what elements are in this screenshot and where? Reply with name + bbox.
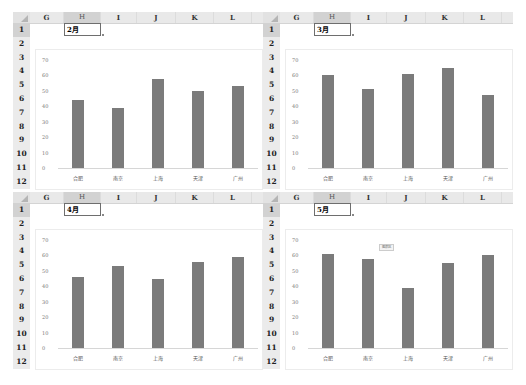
column-header-g[interactable]: G	[30, 192, 64, 203]
column-header-j[interactable]: J	[137, 192, 176, 203]
bar-0[interactable]	[322, 75, 334, 168]
column-header-k[interactable]: K	[176, 192, 214, 203]
column-header-g[interactable]: G	[280, 12, 314, 23]
row-header-4[interactable]: 4	[13, 244, 30, 258]
row-header-1[interactable]: 1	[13, 23, 30, 37]
row-header-11[interactable]: 11	[263, 161, 280, 175]
bar-4[interactable]	[482, 255, 494, 348]
column-header-j[interactable]: J	[137, 12, 176, 23]
column-header-h[interactable]: H	[314, 192, 351, 203]
row-header-2[interactable]: 2	[263, 217, 280, 231]
bar-2[interactable]	[152, 79, 164, 168]
column-header-j[interactable]: J	[387, 192, 426, 203]
row-header-10[interactable]: 10	[263, 327, 280, 341]
column-header-l[interactable]: L	[464, 192, 502, 203]
row-header-3[interactable]: 3	[13, 51, 30, 65]
row-header-9[interactable]: 9	[263, 313, 280, 327]
row-header-7[interactable]: 7	[13, 286, 30, 300]
bar-1[interactable]	[112, 266, 124, 348]
selected-cell-h1[interactable]: 5月	[314, 203, 351, 216]
row-header-10[interactable]: 10	[13, 147, 30, 161]
row-header-11[interactable]: 11	[13, 341, 30, 355]
bar-chart-2[interactable]: 706050403020100合肥南京上海天津广州	[285, 49, 513, 190]
row-header-5[interactable]: 5	[13, 78, 30, 92]
bar-4[interactable]	[482, 95, 494, 168]
column-header-l[interactable]: L	[464, 12, 502, 23]
row-header-3[interactable]: 3	[13, 231, 30, 245]
selected-cell-h1[interactable]: 2月	[64, 23, 101, 36]
bar-1[interactable]	[362, 89, 374, 168]
row-header-6[interactable]: 6	[13, 92, 30, 106]
row-header-3[interactable]: 3	[263, 231, 280, 245]
column-header-l[interactable]: L	[214, 192, 252, 203]
row-header-7[interactable]: 7	[263, 106, 280, 120]
row-header-1[interactable]: 1	[13, 203, 30, 217]
bar-2[interactable]	[402, 288, 414, 348]
fill-handle[interactable]	[102, 214, 104, 216]
bar-4[interactable]	[232, 86, 244, 168]
bar-3[interactable]	[192, 91, 204, 168]
fill-handle[interactable]	[102, 34, 104, 36]
row-header-12[interactable]: 12	[263, 175, 280, 189]
column-header-g[interactable]: G	[30, 12, 64, 23]
selected-cell-h1[interactable]: 3月	[314, 23, 351, 36]
bar-0[interactable]	[322, 254, 334, 348]
row-header-8[interactable]: 8	[263, 120, 280, 134]
row-header-8[interactable]: 8	[13, 300, 30, 314]
fill-handle[interactable]	[352, 214, 354, 216]
column-header-i[interactable]: I	[351, 192, 387, 203]
row-header-6[interactable]: 6	[263, 92, 280, 106]
row-header-2[interactable]: 2	[13, 37, 30, 51]
row-header-2[interactable]: 2	[13, 217, 30, 231]
column-header-h[interactable]: H	[64, 12, 101, 23]
column-header-h[interactable]: H	[314, 12, 351, 23]
bar-0[interactable]	[72, 277, 84, 348]
selected-cell-h1[interactable]: 4月	[64, 203, 101, 216]
row-header-9[interactable]: 9	[263, 133, 280, 147]
bar-chart-1[interactable]: 706050403020100合肥南京上海天津广州	[35, 49, 263, 190]
row-header-4[interactable]: 4	[263, 64, 280, 78]
row-header-1[interactable]: 1	[263, 203, 280, 217]
bar-chart-3[interactable]: 706050403020100合肥南京上海天津广州	[35, 229, 263, 370]
row-header-5[interactable]: 5	[263, 258, 280, 272]
row-header-11[interactable]: 11	[13, 161, 30, 175]
row-header-7[interactable]: 7	[13, 106, 30, 120]
row-header-12[interactable]: 12	[13, 175, 30, 189]
row-header-5[interactable]: 5	[263, 78, 280, 92]
bar-3[interactable]	[442, 68, 454, 168]
row-header-3[interactable]: 3	[263, 51, 280, 65]
bar-4[interactable]	[232, 257, 244, 348]
row-header-6[interactable]: 6	[263, 272, 280, 286]
row-header-11[interactable]: 11	[263, 341, 280, 355]
bar-3[interactable]	[442, 263, 454, 348]
column-header-l[interactable]: L	[214, 12, 252, 23]
column-header-h[interactable]: H	[64, 192, 101, 203]
row-header-1[interactable]: 1	[263, 23, 280, 37]
column-header-k[interactable]: K	[426, 12, 464, 23]
bar-0[interactable]	[72, 100, 84, 168]
column-header-k[interactable]: K	[176, 12, 214, 23]
row-header-4[interactable]: 4	[13, 64, 30, 78]
select-all-corner[interactable]	[13, 12, 30, 23]
column-header-i[interactable]: I	[351, 12, 387, 23]
row-header-8[interactable]: 8	[13, 120, 30, 134]
row-header-6[interactable]: 6	[13, 272, 30, 286]
row-header-9[interactable]: 9	[13, 133, 30, 147]
select-all-corner[interactable]	[263, 12, 280, 23]
row-header-5[interactable]: 5	[13, 258, 30, 272]
column-header-j[interactable]: J	[387, 12, 426, 23]
row-header-10[interactable]: 10	[263, 147, 280, 161]
fill-handle[interactable]	[352, 34, 354, 36]
row-header-7[interactable]: 7	[263, 286, 280, 300]
column-header-i[interactable]: I	[101, 192, 137, 203]
bar-3[interactable]	[192, 262, 204, 348]
select-all-corner[interactable]	[263, 192, 280, 203]
bar-2[interactable]	[152, 279, 164, 348]
row-header-12[interactable]: 12	[13, 355, 30, 369]
row-header-10[interactable]: 10	[13, 327, 30, 341]
select-all-corner[interactable]	[13, 192, 30, 203]
bar-1[interactable]	[112, 108, 124, 168]
row-header-4[interactable]: 4	[263, 244, 280, 258]
column-header-i[interactable]: I	[101, 12, 137, 23]
bar-chart-4[interactable]: 706050403020100合肥南京上海天津广州图表区	[285, 229, 513, 370]
